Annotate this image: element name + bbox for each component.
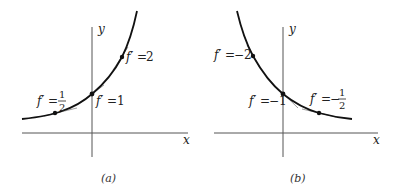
annotation-b-half-label: f′ = xyxy=(309,92,331,106)
point-b-half xyxy=(317,111,321,115)
annotation-a-half-num: 1 xyxy=(59,89,65,100)
annotation-a-half-den: 2 xyxy=(59,102,65,113)
caption-b: (b) xyxy=(290,172,306,185)
annotation-a-one-label: f′ = xyxy=(95,94,117,108)
y-axis-label-a: y xyxy=(97,22,105,36)
diagram-canvas: y x f′ = 1 2 f′ = 1 f′ = 2 (a) y x f′ = … xyxy=(0,0,398,193)
x-axis-label-a: x xyxy=(183,133,190,147)
panel-a: y x f′ = 1 2 f′ = 1 f′ = 2 (a) xyxy=(22,11,190,185)
x-axis-label-b: x xyxy=(373,133,380,147)
panel-b: y x f′ = −2 f′ = −1 f′ = − 1 2 (b) xyxy=(213,11,380,185)
point-a-one xyxy=(90,92,95,97)
point-a-half xyxy=(53,111,57,115)
caption-a: (a) xyxy=(101,172,116,185)
annotation-a-half-label: f′ = xyxy=(36,94,58,108)
y-axis-label-b: y xyxy=(288,22,296,36)
annotation-b-two-value: −2 xyxy=(234,48,252,62)
annotation-b-two-label: f′ = xyxy=(213,48,235,62)
point-a-two xyxy=(120,55,124,59)
annotation-a-two-value: 2 xyxy=(146,50,154,64)
annotation-b-half-den: 2 xyxy=(339,100,345,111)
annotation-a-two-label: f′ = xyxy=(125,50,147,64)
annotation-b-one-label: f′ = xyxy=(248,94,270,108)
annotation-b-one-value: −1 xyxy=(269,94,287,108)
annotation-a-one-value: 1 xyxy=(117,94,125,108)
annotation-b-half-num: 1 xyxy=(339,87,345,98)
